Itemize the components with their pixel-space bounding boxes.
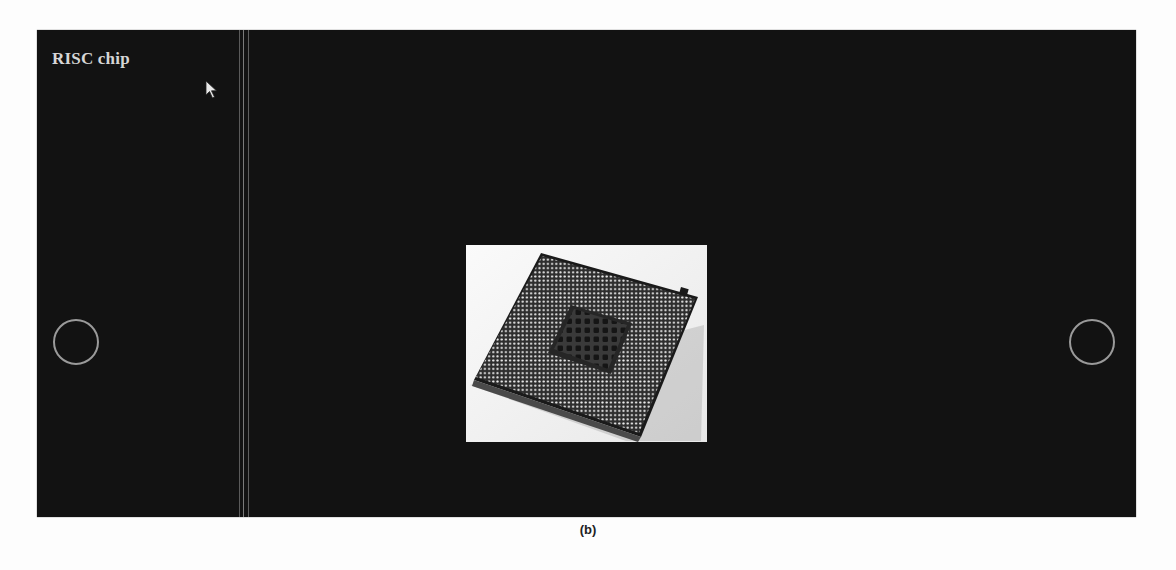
next-slide-button[interactable] (1069, 319, 1115, 365)
figure: RISC chip (0, 0, 1176, 570)
slideshow-panel: RISC chip (37, 30, 1136, 517)
previous-slide-button[interactable] (53, 319, 99, 365)
divider-line (243, 30, 244, 517)
divider-line (239, 30, 240, 517)
slide-title: RISC chip (52, 49, 130, 69)
chip-image (466, 245, 707, 442)
mouse-cursor-icon (205, 80, 219, 100)
cpu-chip-icon (466, 245, 707, 442)
figure-caption: (b) (0, 522, 1176, 537)
divider-line (248, 30, 249, 517)
